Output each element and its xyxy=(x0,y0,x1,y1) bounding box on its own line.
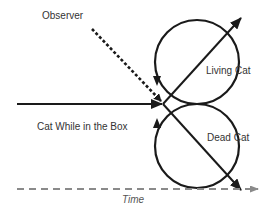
dead-branch-arrow xyxy=(163,104,241,190)
living-cat-circle xyxy=(153,20,239,104)
diagram-canvas xyxy=(0,0,271,215)
cat-in-box-label: Cat While in the Box xyxy=(37,122,128,132)
dead-cat-circle xyxy=(153,104,239,188)
time-label: Time xyxy=(122,195,144,205)
dead-cat-label: Dead Cat xyxy=(207,133,249,143)
observer-arrow xyxy=(92,29,161,101)
living-branch-arrow xyxy=(163,18,241,104)
living-cat-label: Living Cat xyxy=(206,66,250,76)
circle-direction-arrow-icon xyxy=(153,118,161,128)
observer-label: Observer xyxy=(42,11,83,21)
